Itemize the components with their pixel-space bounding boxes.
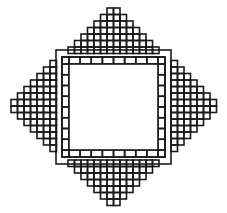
grid-cell bbox=[44, 106, 51, 113]
grid-cell bbox=[101, 173, 108, 180]
grid-cell bbox=[140, 167, 147, 174]
grid-cell bbox=[184, 113, 191, 120]
grid-cell bbox=[101, 167, 108, 174]
grid-cell bbox=[178, 100, 185, 107]
grid-cell bbox=[88, 41, 95, 48]
grid-cell bbox=[171, 80, 178, 87]
grid-cell bbox=[178, 87, 185, 94]
grid-cell bbox=[146, 41, 153, 48]
grid-cell bbox=[18, 113, 25, 120]
grid-cell bbox=[178, 93, 185, 100]
grid-cell bbox=[191, 100, 198, 107]
grid-cell bbox=[80, 57, 91, 64]
grid-cell bbox=[191, 80, 198, 87]
grid-cell bbox=[44, 139, 51, 146]
grid-cell bbox=[107, 21, 114, 28]
grid-cell bbox=[191, 113, 198, 120]
grid-cell bbox=[94, 34, 101, 41]
grid-cell bbox=[107, 199, 114, 206]
grid-cell bbox=[171, 74, 178, 81]
grid-cell bbox=[210, 106, 217, 113]
grid-cell bbox=[81, 41, 88, 48]
grid-cell bbox=[37, 93, 44, 100]
grid-cell bbox=[178, 119, 185, 126]
grid-cell bbox=[184, 74, 191, 81]
grid-cell bbox=[75, 41, 82, 48]
grid-cell bbox=[127, 180, 134, 187]
grid-cell bbox=[120, 180, 127, 187]
grid-cell bbox=[158, 139, 165, 150]
grid-cell bbox=[197, 113, 204, 120]
grid-cell bbox=[171, 126, 178, 133]
grid-cell bbox=[101, 193, 108, 200]
bottom-triangle-grid bbox=[68, 160, 159, 206]
grid-cell bbox=[37, 126, 44, 133]
grid-cell bbox=[62, 86, 69, 97]
grid-cell bbox=[94, 186, 101, 193]
grid-cell bbox=[94, 28, 101, 35]
grid-cell bbox=[94, 41, 101, 48]
grid-cell bbox=[88, 34, 95, 41]
grid-cell bbox=[184, 100, 191, 107]
grid-cell bbox=[31, 100, 38, 107]
grid-cell bbox=[133, 28, 140, 35]
grid-cell bbox=[94, 21, 101, 28]
grid-cell bbox=[114, 186, 121, 193]
grid-cell bbox=[37, 100, 44, 107]
grid-cell bbox=[127, 167, 134, 174]
grid-cell bbox=[147, 57, 158, 64]
grid-cell bbox=[44, 87, 51, 94]
grid-cell bbox=[120, 21, 127, 28]
grid-cell bbox=[81, 167, 88, 174]
grid-cell bbox=[44, 132, 51, 139]
grid-cell bbox=[44, 100, 51, 107]
grid-cell bbox=[44, 80, 51, 87]
grid-cell bbox=[158, 57, 165, 64]
grid-cell bbox=[178, 139, 185, 146]
grid-cell bbox=[24, 106, 31, 113]
grid-cell bbox=[120, 193, 127, 200]
grid-cell bbox=[158, 64, 165, 75]
grid-cell bbox=[140, 34, 147, 41]
grid-cell bbox=[102, 150, 113, 157]
grid-cell bbox=[11, 106, 18, 113]
grid-cell bbox=[147, 150, 158, 157]
grid-cell bbox=[62, 118, 69, 129]
right-triangle-grid bbox=[171, 61, 217, 152]
grid-cell bbox=[44, 93, 51, 100]
grid-cell bbox=[69, 150, 80, 157]
grid-cell bbox=[140, 173, 147, 180]
grid-cell bbox=[204, 100, 211, 107]
grid-cell bbox=[107, 34, 114, 41]
grid-cell bbox=[191, 119, 198, 126]
grid-cell bbox=[184, 87, 191, 94]
grid-cell bbox=[11, 100, 18, 107]
grid-cell bbox=[88, 173, 95, 180]
grid-cell bbox=[44, 67, 51, 74]
grid-cell bbox=[107, 180, 114, 187]
grid-cell bbox=[37, 113, 44, 120]
grid-cell bbox=[107, 28, 114, 35]
grid-cell bbox=[114, 15, 121, 22]
grid-cell bbox=[114, 21, 121, 28]
grid-cell bbox=[102, 57, 113, 64]
grid-cell bbox=[88, 28, 95, 35]
grid-cell bbox=[184, 132, 191, 139]
grid-cell bbox=[120, 34, 127, 41]
grid-cell bbox=[94, 180, 101, 187]
grid-cell bbox=[178, 113, 185, 120]
grid-cell bbox=[81, 34, 88, 41]
grid-cell bbox=[191, 93, 198, 100]
grid-cell bbox=[62, 75, 69, 86]
grid-cell bbox=[120, 41, 127, 48]
grid-cell bbox=[101, 34, 108, 41]
grid-cell bbox=[114, 173, 121, 180]
grid-cell bbox=[114, 57, 125, 64]
grid-cell bbox=[197, 100, 204, 107]
grid-cell bbox=[44, 113, 51, 120]
grid-cell bbox=[37, 87, 44, 94]
grid-cell bbox=[184, 126, 191, 133]
grid-cell bbox=[107, 167, 114, 174]
grid-cell bbox=[31, 87, 38, 94]
grid-cell bbox=[31, 80, 38, 87]
